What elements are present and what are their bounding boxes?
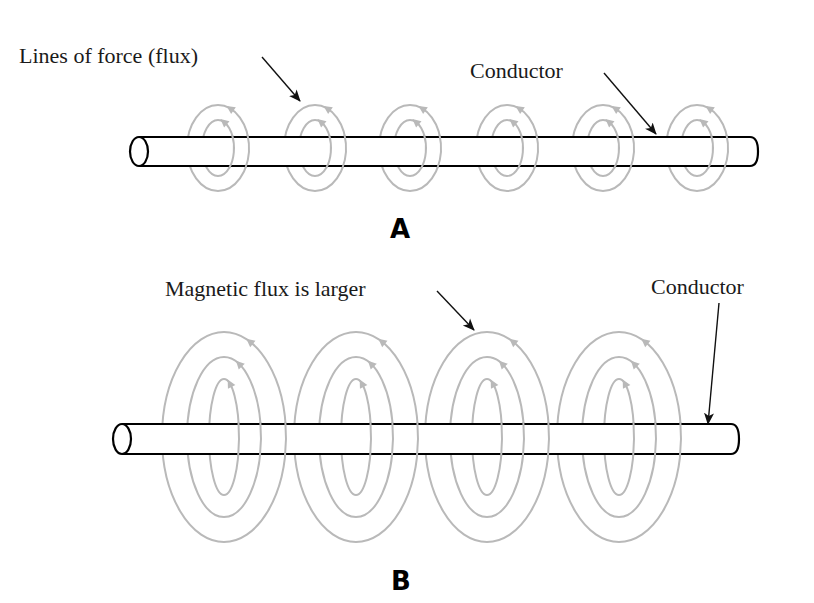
flux-direction-arrow-icon <box>226 106 235 114</box>
flux-label-a: Lines of force (flux) <box>19 43 198 68</box>
conductor-b <box>113 424 739 454</box>
flux-direction-arrow-icon <box>418 106 427 114</box>
conductor-leader-arrow-b <box>708 303 719 424</box>
magnetic-flux-diagram: Lines of force (flux) Conductor A Magnet… <box>0 0 814 603</box>
panel-a: Lines of force (flux) Conductor A <box>19 43 758 244</box>
flux-leader-arrow-a <box>262 57 300 101</box>
conductor-label-b: Conductor <box>651 274 745 299</box>
conductor-label-a: Conductor <box>470 58 564 83</box>
panel-b: Magnetic flux is larger Conductor B <box>113 274 745 596</box>
panel-letter-a: A <box>390 214 410 244</box>
flux-label-b: Magnetic flux is larger <box>165 276 366 301</box>
conductor-end-cap-b <box>113 424 131 454</box>
conductor-a <box>130 137 758 166</box>
flux-leader-arrow-b <box>437 291 474 330</box>
flux-direction-arrow-icon <box>611 106 620 114</box>
conductor-end-cap-a <box>130 137 148 166</box>
panel-letter-b: B <box>391 566 411 596</box>
flux-direction-arrow-icon <box>515 106 524 114</box>
flux-direction-arrow-icon <box>323 106 332 114</box>
conductor-body-b <box>122 424 739 454</box>
flux-direction-arrow-icon <box>705 106 714 114</box>
